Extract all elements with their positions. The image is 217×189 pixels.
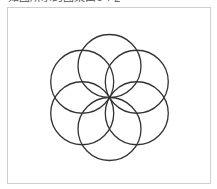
- circle-flower-diagram: [0, 0, 217, 189]
- center-point: [108, 96, 110, 98]
